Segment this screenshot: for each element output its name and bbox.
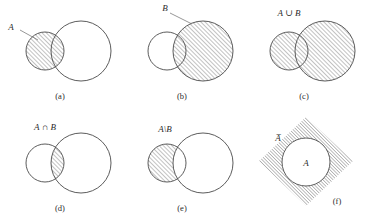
panel-c-shaded-region-union	[270, 21, 355, 81]
panel-e-caption: (e)	[177, 203, 187, 213]
panel-a-caption: (a)	[55, 91, 65, 101]
panel-c-set-label: A ∪ B	[277, 8, 301, 18]
panel-f-complement-label: A̅	[274, 133, 281, 143]
panel-a-set-label: A	[7, 22, 14, 32]
venn-diagram-canvas: A (a) B (b) A ∪ B (c)	[0, 0, 366, 219]
panel-e-set-label: A\B	[157, 124, 172, 134]
panel-c: A ∪ B (c)	[270, 8, 355, 101]
panel-b-leader-line	[170, 13, 192, 24]
panel-a: A (a)	[7, 21, 111, 101]
panel-c-caption: (c)	[299, 91, 309, 101]
panel-f-caption: (f)	[333, 196, 342, 206]
panel-e-shaded-region-difference	[120, 120, 240, 210]
panel-d-caption: (d)	[55, 203, 65, 213]
panel-d-set-label: A ∩ B	[33, 122, 56, 132]
panel-b-set-label: B	[162, 3, 168, 13]
panel-d: A ∩ B (d)	[26, 122, 111, 213]
panel-b-caption: (b)	[177, 91, 187, 101]
panel-e: A\B (e)	[120, 120, 240, 213]
panel-f: A̅ A (f)	[259, 117, 353, 206]
venn-diagram-figure: A (a) B (b) A ∪ B (c)	[0, 0, 366, 219]
panel-b: B (b)	[148, 3, 233, 101]
panel-f-inner-label: A	[302, 158, 309, 168]
